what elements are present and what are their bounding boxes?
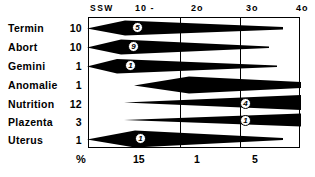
row-label-abort: Abort 10 (0, 38, 86, 56)
bar-uterus (87, 130, 283, 148)
bar-termin (87, 20, 283, 36)
bar-plazenta (124, 113, 301, 127)
badge-uterus: 1 (135, 133, 146, 144)
row-name-gemini: Gemini (0, 60, 76, 72)
plot-area: 5 9 1 4 1 1 (88, 17, 300, 148)
row-label-gemini: Gemini 1 (0, 57, 86, 75)
row-label-uterus: Uterus 1 (0, 131, 86, 149)
row-name-termin: Termin (0, 22, 70, 34)
top-axis-tick-10: 10 - (135, 3, 155, 13)
bottom-axis-tick-1: 1 (194, 153, 200, 165)
badge-nutrition: 4 (240, 98, 251, 109)
row-count-uterus: 1 (76, 134, 86, 146)
row-count-gemini: 1 (76, 60, 86, 72)
row-label-termin: Termin 10 (0, 19, 86, 37)
bar-anomalie (134, 76, 301, 94)
bar-gemini (87, 58, 277, 74)
bottom-axis-label-percent: % (76, 153, 86, 165)
statistical-lens-chart: SSW 10 - 2o 3o 4o Termin 10 Abort 10 Gem… (0, 0, 315, 177)
top-axis-label-ssw: SSW (90, 3, 114, 13)
bottom-axis-tick-5: 5 (252, 153, 258, 165)
row-name-anomalie: Anomalie (0, 79, 76, 91)
bottom-axis: % 15 1 5 (0, 148, 315, 177)
row-label-anomalie: Anomalie 1 (0, 76, 86, 94)
row-name-abort: Abort (0, 41, 70, 53)
bar-abort (87, 39, 269, 55)
top-axis-tick-40: 4o (296, 3, 309, 13)
badge-termin: 5 (132, 22, 143, 33)
row-name-nutrition: Nutrition (0, 98, 70, 110)
row-count-nutrition: 12 (70, 98, 86, 110)
top-axis-tick-20: 2o (191, 3, 204, 13)
badge-gemini: 1 (125, 60, 136, 71)
row-name-uterus: Uterus (0, 134, 76, 146)
row-label-plazenta: Plazenta 3 (0, 113, 86, 131)
bottom-axis-tick-15: 15 (133, 153, 145, 165)
badge-abort: 9 (128, 41, 139, 52)
row-count-abort: 10 (70, 41, 86, 53)
bar-nutrition (124, 95, 301, 110)
row-count-plazenta: 3 (76, 116, 86, 128)
badge-plazenta: 1 (240, 115, 251, 126)
row-name-plazenta: Plazenta (0, 116, 76, 128)
row-count-anomalie: 1 (76, 79, 86, 91)
row-count-termin: 10 (70, 22, 86, 34)
row-label-nutrition: Nutrition 12 (0, 95, 86, 113)
row-label-column: Termin 10 Abort 10 Gemini 1 Anomalie 1 N… (0, 17, 88, 148)
top-axis-tick-30: 3o (246, 3, 259, 13)
